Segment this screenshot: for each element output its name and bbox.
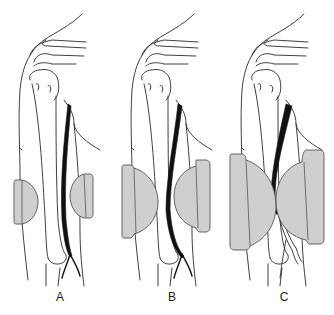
compression-pad-left [14, 180, 38, 224]
panel-label-b: B [162, 290, 182, 304]
compression-pad-right [70, 174, 93, 218]
compression-pad-left [230, 154, 276, 250]
nerve-branch [182, 254, 192, 276]
panel-c [230, 14, 324, 286]
figure-canvas [0, 0, 334, 315]
nerve-branch [280, 240, 286, 278]
compression-pad-right [174, 160, 210, 232]
arm-outline [19, 14, 100, 286]
panel-b [122, 14, 212, 286]
compression-pad-left [122, 165, 158, 238]
nerve-branch [70, 254, 80, 276]
panel-a [14, 14, 100, 286]
panel-label-a: A [50, 290, 70, 304]
panel-label-c: C [274, 290, 294, 304]
radial-nerve [61, 104, 72, 257]
